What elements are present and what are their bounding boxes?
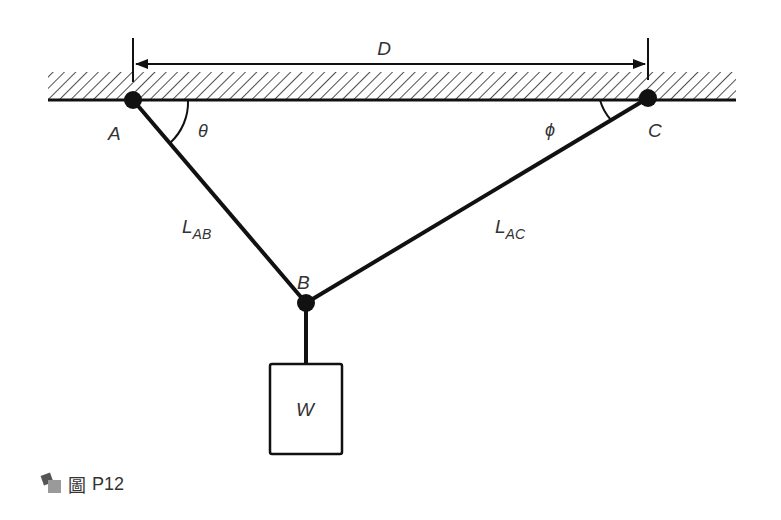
weight-label: W	[296, 399, 316, 420]
point-a-label: A	[107, 123, 121, 144]
length-ac-label: LAC	[495, 216, 526, 242]
figure-caption: 圖 P12	[42, 471, 124, 497]
joint-c	[639, 89, 657, 107]
arrowhead-right-icon	[633, 59, 646, 69]
point-b-label: B	[297, 272, 310, 293]
arrowhead-left-icon	[135, 59, 148, 69]
joint-a	[124, 91, 142, 109]
caption-marker-icon	[42, 474, 62, 494]
caption-char: 圖	[68, 471, 86, 497]
angle-arc-phi	[600, 100, 611, 120]
point-c-label: C	[648, 120, 662, 141]
truss-diagram: D A C B θ ϕ LAB LAC W	[0, 0, 781, 520]
angle-arc-theta	[170, 100, 188, 143]
ceiling-hatch	[48, 72, 736, 99]
joint-b	[297, 294, 315, 312]
angle-theta-label: θ	[198, 121, 208, 141]
member-ac	[306, 98, 648, 303]
angle-phi-label: ϕ	[545, 120, 555, 140]
caption-id: P12	[92, 474, 124, 495]
length-ab-label: LAB	[182, 216, 211, 242]
dimension-label: D	[377, 38, 391, 59]
member-ab	[133, 100, 306, 303]
